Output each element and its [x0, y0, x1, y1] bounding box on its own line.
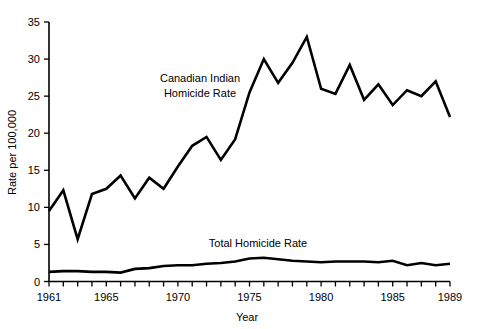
x-tick-label: 1965	[94, 291, 118, 303]
y-tick-label: 15	[28, 164, 40, 176]
annotation-total-homicide-rate: Total Homicide Rate	[209, 237, 307, 249]
y-tick-label: 35	[28, 16, 40, 28]
y-tick-label: 30	[28, 53, 40, 65]
y-tick-label: 5	[34, 238, 40, 250]
y-axis-title: Rate per 100,000	[6, 110, 18, 195]
chart-figure: 05101520253035 1961196519701975198019851…	[0, 0, 480, 329]
x-tick-label: 1970	[166, 291, 190, 303]
y-tick-label: 10	[28, 201, 40, 213]
x-axis-title: Year	[236, 311, 259, 323]
x-tick-label: 1980	[309, 291, 333, 303]
annotation-canadian-indian-line1: Canadian Indian	[160, 72, 240, 84]
series-line-canadian-indian-homicide-rate	[49, 37, 450, 239]
y-tick-label: 0	[34, 276, 40, 288]
annotation-canadian-indian-line2: Homicide Rate	[164, 87, 236, 99]
x-axis-tick-labels: 1961196519701975198019851989	[37, 291, 462, 303]
x-tick-label: 1975	[237, 291, 261, 303]
line-chart: 05101520253035 1961196519701975198019851…	[0, 0, 480, 329]
x-tick-label: 1961	[37, 291, 61, 303]
y-tick-label: 25	[28, 90, 40, 102]
y-tick-label: 20	[28, 127, 40, 139]
series-line-total-homicide-rate	[49, 258, 450, 273]
x-tick-label: 1989	[438, 291, 462, 303]
x-tick-label: 1985	[380, 291, 404, 303]
y-axis-tick-labels: 05101520253035	[28, 16, 40, 288]
